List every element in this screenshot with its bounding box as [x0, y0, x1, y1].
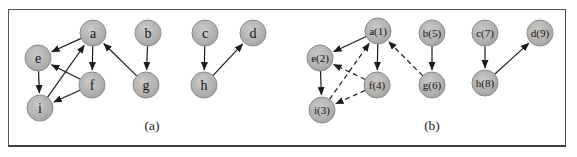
node-label-b-i: i(3) — [314, 104, 330, 117]
edge-a-e-i — [39, 71, 40, 93]
edge-a-g-a — [104, 44, 137, 76]
node-label-a-h: h — [201, 78, 208, 93]
node-label-b-h: h(8) — [476, 77, 495, 90]
edge-a-i-a — [48, 45, 85, 97]
node-label-b-d: d(9) — [531, 27, 550, 40]
node-label-b-a: a(1) — [369, 25, 387, 38]
edge-b-h-d — [495, 43, 529, 74]
node-label-a-i: i — [38, 101, 42, 116]
node-label-a-a: a — [90, 26, 97, 41]
node-label-b-g: g(6) — [423, 79, 442, 92]
panel-b: a(1)e(2)f(4)i(3)b(5)g(6)c(7)h(8)d(9) — [307, 18, 553, 123]
panel-a-label: (a) — [145, 118, 160, 134]
edge-a-h-d — [213, 44, 243, 76]
node-label-b-c: c(7) — [476, 27, 494, 40]
edge-a-b-g — [147, 46, 148, 70]
node-label-a-c: c — [202, 26, 208, 41]
panel-b-label: (b) — [424, 118, 440, 134]
edge-a-a-e — [52, 38, 82, 51]
edge-b-g-a — [389, 42, 423, 76]
edge-b-e-i — [321, 71, 322, 95]
panel-a: aefibgchd — [25, 20, 266, 121]
node-label-a-e: e — [35, 51, 41, 66]
node-label-a-b: b — [145, 26, 152, 41]
graph-figure: aefibgchda(1)e(2)f(4)i(3)b(5)g(6)c(7)h(8… — [9, 10, 565, 145]
edge-b-f-i — [336, 90, 366, 103]
edge-a-f-i — [54, 90, 80, 102]
node-label-b-e: e(2) — [311, 52, 329, 65]
edge-b-a-e — [334, 36, 367, 51]
node-label-b-b: b(5) — [423, 27, 442, 40]
edge-b-f-e — [334, 64, 366, 79]
node-label-a-f: f — [90, 78, 95, 93]
figure-frame: aefibgchda(1)e(2)f(4)i(3)b(5)g(6)c(7)h(8… — [8, 9, 566, 147]
node-label-a-d: d — [250, 26, 257, 41]
node-label-b-f: f(4) — [369, 79, 386, 92]
node-label-a-g: g — [143, 78, 150, 93]
